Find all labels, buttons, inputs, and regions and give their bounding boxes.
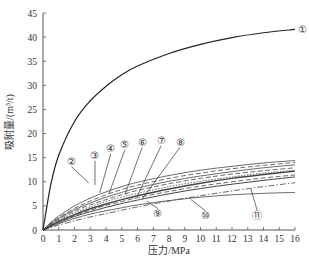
y-tick-label: 5 xyxy=(32,201,37,211)
y-tick-label: 40 xyxy=(28,33,38,43)
y-tick-label: 35 xyxy=(28,57,38,67)
label-leader-line xyxy=(251,189,257,211)
curve-label-9: ⑨ xyxy=(153,208,162,219)
label-leader-line xyxy=(109,150,125,194)
y-tick-label: 30 xyxy=(28,81,38,91)
x-tick-label: 13 xyxy=(243,234,253,244)
x-tick-label: 16 xyxy=(290,234,300,244)
curve-labels: ①②③④⑤⑥⑦⑧⑨⑩⑪ xyxy=(67,24,308,221)
y-tick-label: 15 xyxy=(28,153,38,163)
curve-label-2: ② xyxy=(67,156,76,167)
label-leader-line xyxy=(100,154,111,193)
x-tick-label: 3 xyxy=(88,234,93,244)
x-tick-label: 14 xyxy=(259,234,269,244)
label-leader-line xyxy=(138,146,162,196)
adsorption-isotherm-chart: 0123456789101112131415160510152025303540… xyxy=(0,0,309,268)
x-tick-label: 8 xyxy=(167,234,172,244)
curve-label-10: ⑩ xyxy=(201,210,210,221)
curve-label-11: ⑪ xyxy=(252,210,262,221)
y-tick-label: 0 xyxy=(32,226,37,236)
x-tick-label: 10 xyxy=(196,234,206,244)
label-leader-line xyxy=(71,167,88,183)
curve-label-6: ⑥ xyxy=(138,137,147,148)
curve-label-5: ⑤ xyxy=(120,139,129,150)
axes: 0123456789101112131415160510152025303540… xyxy=(28,9,301,245)
x-tick-label: 12 xyxy=(227,234,237,244)
x-tick-label: 1 xyxy=(56,234,61,244)
y-tick-label: 10 xyxy=(28,177,38,187)
curve-series-9 xyxy=(43,177,295,230)
curve-label-1: ① xyxy=(298,24,307,35)
x-tick-label: 7 xyxy=(151,234,156,244)
label-leader-line xyxy=(191,200,205,211)
x-axis-label: 压力/MPa xyxy=(148,244,190,256)
curves xyxy=(43,29,295,230)
curve-label-3: ③ xyxy=(90,150,99,161)
curve-label-4: ④ xyxy=(106,143,115,154)
x-tick-label: 11 xyxy=(212,234,221,244)
x-tick-label: 0 xyxy=(41,234,46,244)
x-tick-label: 6 xyxy=(135,234,140,244)
y-axis-label: 吸附量/(m³/t) xyxy=(3,94,16,150)
curve-label-7: ⑦ xyxy=(157,135,166,146)
curve-series-11 xyxy=(43,183,295,230)
x-tick-label: 15 xyxy=(275,234,285,244)
x-tick-label: 4 xyxy=(104,234,109,244)
x-tick-label: 5 xyxy=(119,234,124,244)
plot-area: 0123456789101112131415160510152025303540… xyxy=(0,0,309,268)
curve-series-1 xyxy=(43,29,295,230)
y-tick-label: 25 xyxy=(28,105,38,115)
y-tick-label: 45 xyxy=(28,9,38,19)
x-tick-label: 9 xyxy=(182,234,187,244)
curve-label-8: ⑧ xyxy=(176,137,185,148)
y-tick-label: 20 xyxy=(28,129,38,139)
x-tick-label: 2 xyxy=(72,234,77,244)
